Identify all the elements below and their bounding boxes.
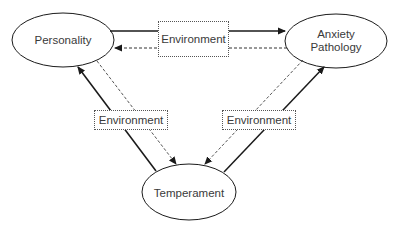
environment-box-left: Environment xyxy=(94,110,168,130)
anxiety-label-line2: Pathology xyxy=(310,41,361,54)
anxiety-pathology-label: Anxiety Pathology xyxy=(310,28,361,54)
personality-label: Personality xyxy=(35,34,92,47)
environment-box-right: Environment xyxy=(222,110,296,130)
anxiety-label-line1: Anxiety xyxy=(310,28,361,41)
temperament-label: Temperament xyxy=(154,187,224,200)
environment-box-top: Environment xyxy=(158,21,229,57)
